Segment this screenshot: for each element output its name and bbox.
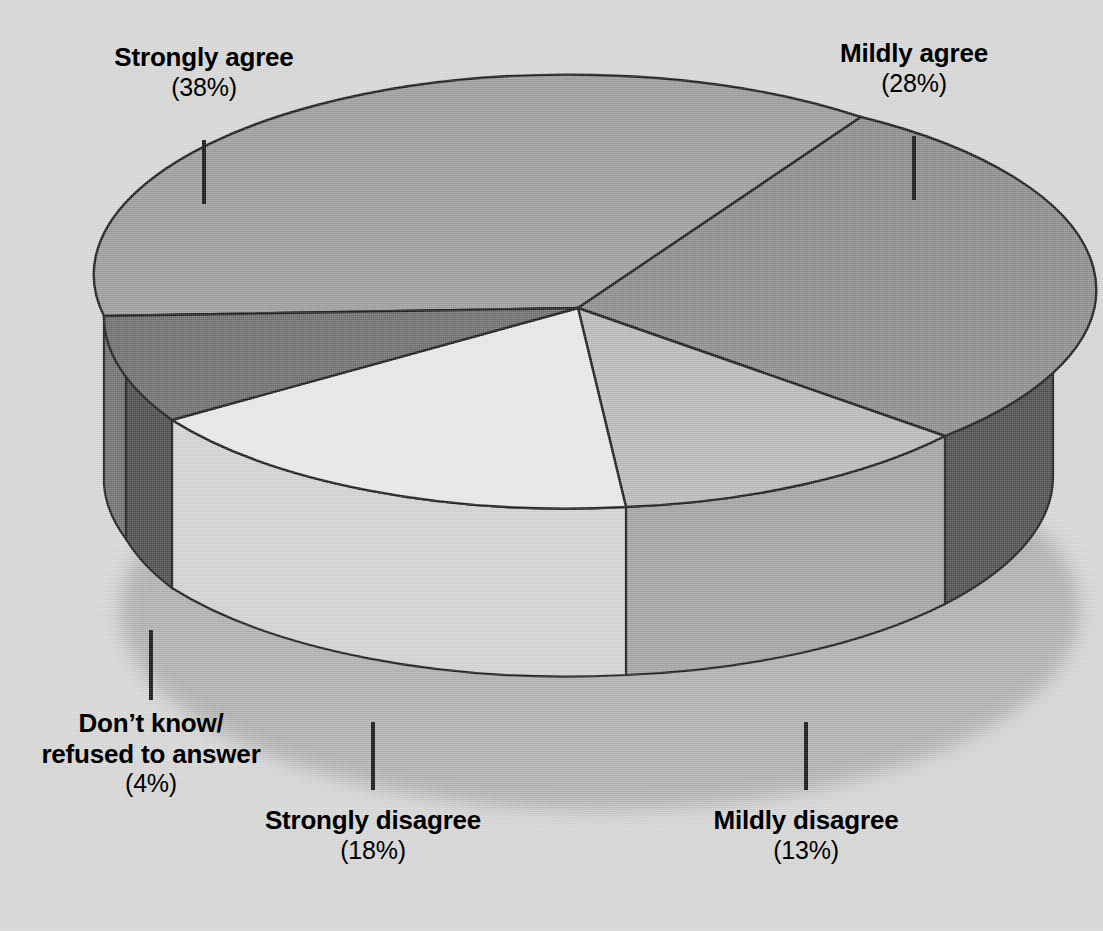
label-dont-know: Don’t know/ refused to answer (4%) [41, 708, 260, 799]
label-strongly-disagree: Strongly disagree (18%) [265, 805, 481, 865]
label-strongly-agree-name: Strongly agree [114, 42, 293, 73]
label-strongly-agree-percent: (38%) [114, 73, 293, 103]
label-mildly-agree-name: Mildly agree [840, 38, 988, 69]
label-mildly-disagree: Mildly disagree (13%) [714, 805, 899, 865]
label-strongly-agree: Strongly agree (38%) [114, 42, 293, 102]
label-dont-know-name-line2: refused to answer [41, 739, 260, 770]
label-mildly-disagree-name: Mildly disagree [714, 805, 899, 836]
label-mildly-agree-percent: (28%) [840, 69, 988, 99]
label-dont-know-percent: (4%) [41, 769, 260, 799]
label-dont-know-name-line1: Don’t know/ [41, 708, 260, 739]
label-mildly-agree: Mildly agree (28%) [840, 38, 988, 98]
label-strongly-disagree-name: Strongly disagree [265, 805, 481, 836]
label-strongly-disagree-percent: (18%) [265, 836, 481, 866]
pie-chart: Strongly agree (38%) Mildly agree (28%) … [0, 0, 1103, 931]
label-mildly-disagree-percent: (13%) [714, 836, 899, 866]
